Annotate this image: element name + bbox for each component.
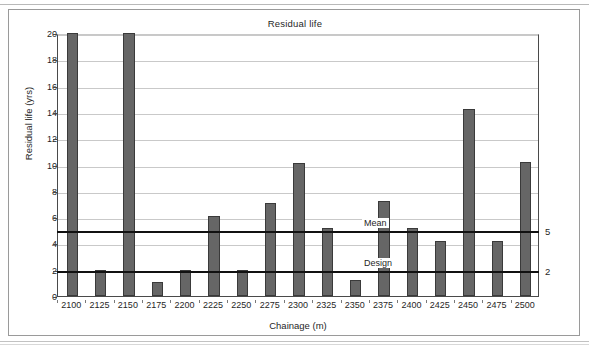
y-tick-mark [53,297,57,298]
x-tick-mark [341,300,342,303]
x-tick-label: 2250 [231,300,251,310]
bar [520,162,531,296]
x-tick-label: 2425 [430,300,450,310]
x-tick-mark [426,300,427,303]
right-axis-value-design: 2 [545,265,550,276]
x-tick-label: 2475 [486,300,506,310]
x-tick-label: 2450 [458,300,478,310]
x-tick-mark [57,300,58,303]
plot-area: MeanDesign [57,34,539,297]
scan-rule-top [0,4,589,5]
reference-line-label-mean: Mean [362,218,389,228]
chart-title: Residual life [9,18,581,29]
x-tick-label: 2175 [146,300,166,310]
x-tick-mark [199,300,200,303]
y-axis: 02468101214161820 [23,34,57,297]
reference-line-mean [57,231,539,233]
bar [123,33,134,296]
bar [67,33,78,296]
bar [95,270,106,296]
x-tick-label: 2125 [90,300,110,310]
x-tick-label: 2275 [260,300,280,310]
x-tick-label: 2350 [345,300,365,310]
x-tick-label: 2200 [175,300,195,310]
bar [293,163,304,296]
x-axis-title: Chainage (m) [57,320,539,331]
bar [152,282,163,296]
bar [492,241,503,296]
x-tick-mark [397,300,398,303]
x-tick-mark [454,300,455,303]
bar [322,228,333,296]
reference-line-label-design: Design [362,258,394,268]
bar [237,270,248,296]
chart-frame: Residual life Residual life (yrs) 024681… [8,9,580,336]
x-tick-mark [85,300,86,303]
x-tick-mark [227,300,228,303]
bar [378,201,389,296]
right-axis-value-mean: 5 [545,226,550,237]
x-tick-label: 2225 [203,300,223,310]
bar [265,203,276,296]
x-tick-label: 2500 [515,300,535,310]
x-tick-mark [482,300,483,303]
x-tick-mark [142,300,143,303]
x-tick-mark [511,300,512,303]
x-tick-mark [255,300,256,303]
bar [463,109,474,296]
chart-page: Residual life Residual life (yrs) 024681… [0,0,589,349]
bar [407,228,418,296]
x-tick-mark [284,300,285,303]
bar [350,280,361,296]
x-tick-label: 2100 [61,300,81,310]
x-tick-label: 2325 [316,300,336,310]
x-tick-mark [114,300,115,303]
bar [180,270,191,296]
x-tick-label: 2375 [373,300,393,310]
bar [208,216,219,296]
scan-rule-bottom-secondary [0,344,589,345]
x-axis-tick-labels: 2100212521502175220022252250227523002325… [57,300,539,316]
x-tick-mark [170,300,171,303]
reference-line-design [57,271,539,273]
bar [435,241,446,296]
x-tick-mark [369,300,370,303]
x-tick-label: 2150 [118,300,138,310]
x-tick-mark [312,300,313,303]
x-tick-label: 2300 [288,300,308,310]
x-tick-label: 2400 [401,300,421,310]
scan-rule-bottom [0,341,589,342]
